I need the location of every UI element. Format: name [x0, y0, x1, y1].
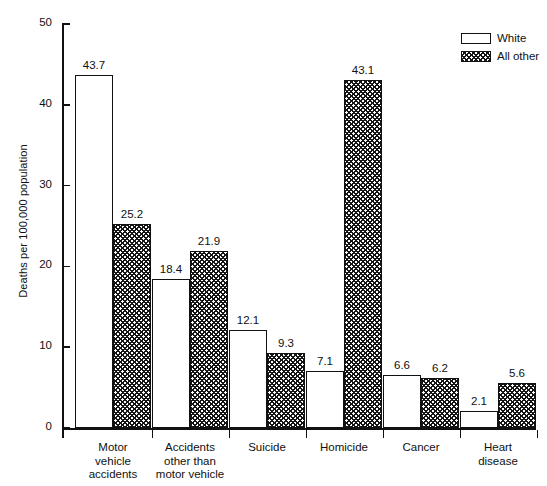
bar-value-label: 21.9 [182, 235, 236, 247]
bar-white [75, 75, 113, 428]
legend-swatch-all-other [461, 51, 491, 62]
legend-item: All other [461, 48, 539, 64]
bar-white [152, 279, 190, 428]
bar-all-other [190, 251, 228, 428]
x-axis-tick [62, 430, 64, 438]
bar-value-label: 9.3 [259, 337, 313, 349]
bar-white [383, 375, 421, 428]
legend-label: All other [497, 50, 539, 62]
x-axis-tick [460, 430, 462, 438]
bar-chart: Deaths per 100,000 population 0102030405… [0, 0, 547, 486]
bar-value-label: 5.6 [490, 367, 544, 379]
legend-swatch-white [461, 33, 491, 44]
x-axis-tick [229, 430, 231, 438]
category-label-line: motor vehicle [142, 468, 238, 482]
legend: WhiteAll other [461, 30, 539, 66]
legend-item: White [461, 30, 539, 46]
bar-white [460, 411, 498, 428]
category-label-line: other than [142, 455, 238, 469]
bar-value-label: 25.2 [105, 208, 159, 220]
category-label-line: Heart [450, 441, 546, 455]
x-axis-category-label: Heartdisease [450, 441, 546, 468]
bar-value-label: 12.1 [221, 314, 275, 326]
x-axis-tick [306, 430, 308, 438]
bar-all-other [113, 224, 151, 428]
category-label-line: disease [450, 455, 546, 469]
bar-value-label: 6.2 [413, 362, 467, 374]
x-axis-tick [537, 430, 539, 438]
bar-value-label: 43.1 [336, 64, 390, 76]
x-axis-tick [152, 430, 154, 438]
bar-all-other [344, 80, 382, 428]
bar-value-label: 43.7 [67, 59, 121, 71]
bar-white [306, 371, 344, 428]
x-axis-tick [383, 430, 385, 438]
bar-all-other [498, 383, 536, 428]
legend-label: White [497, 32, 526, 44]
